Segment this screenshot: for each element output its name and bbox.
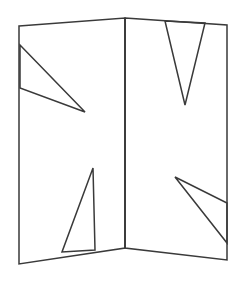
- figure-canvas: [0, 0, 242, 283]
- folded-panel-drawing: [0, 0, 242, 283]
- canvas-background: [0, 0, 242, 283]
